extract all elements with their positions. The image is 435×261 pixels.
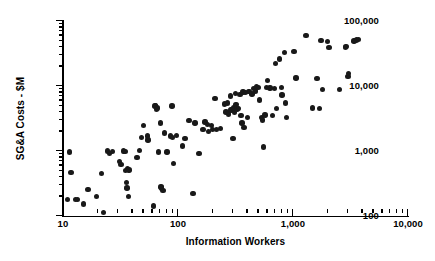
data-point [277,56,282,61]
data-point [126,167,131,172]
data-point [196,151,201,156]
data-point [186,118,191,123]
x-axis-minor-tick [142,209,143,213]
data-point [169,103,174,108]
x-axis-tick-label: 1,000 [281,219,305,229]
y-axis-minor-tick [59,99,63,100]
y-axis-title: SG&A Costs - $M [14,21,28,216]
data-point [141,123,146,128]
x-axis-minor-tick [396,209,397,213]
x-axis-minor-tick [232,209,233,213]
data-point [180,143,185,148]
data-point [225,100,230,105]
data-point [85,187,90,192]
data-point [283,100,288,105]
data-point [318,38,323,43]
data-point [274,106,279,111]
y-axis-minor-tick [59,54,63,55]
data-point [99,171,104,176]
data-point [124,180,129,185]
y-axis-minor-tick [59,184,63,185]
data-point [218,126,223,131]
data-point [164,149,169,154]
data-point [317,106,322,111]
data-point [337,87,342,92]
y-axis-major-tick [56,150,63,151]
y-axis-minor-tick [59,65,63,66]
data-point [212,96,217,101]
data-point [155,105,160,110]
y-axis-minor-tick [59,23,63,24]
data-point [326,45,331,50]
data-point [122,149,127,154]
y-axis-minor-tick [59,46,63,47]
data-point [192,120,197,125]
data-point [124,185,129,190]
y-axis-minor-tick [59,34,63,35]
y-axis-minor-tick [59,111,63,112]
data-point [356,37,361,42]
data-point [118,162,123,167]
x-axis-minor-tick [266,209,267,213]
data-point [182,136,187,141]
x-axis-tick-label: 10,000 [393,219,423,229]
plot-area [63,21,408,216]
x-axis-major-tick [292,209,293,216]
data-point [162,130,167,135]
x-axis-minor-tick [246,209,247,213]
y-axis-minor-tick [59,156,63,157]
data-point [67,149,72,154]
y-axis-minor-tick [59,176,63,177]
y-axis-ticks [55,20,63,217]
data-point [241,125,246,130]
data-point [261,144,266,149]
x-axis-minor-tick [151,209,152,213]
x-axis-tick-label: 10 [58,219,69,229]
data-point [282,50,287,55]
y-axis-minor-tick [59,153,63,154]
y-axis-minor-tick [59,130,63,131]
data-point [293,75,298,80]
data-point [346,71,351,76]
x-axis-minor-tick [159,209,160,213]
x-axis-minor-tick [281,209,282,213]
y-axis-minor-tick [59,91,63,92]
data-point [151,203,156,208]
x-axis-minor-tick [97,209,98,213]
data-point [75,197,80,202]
data-point [279,85,284,90]
data-point [260,117,265,122]
x-axis-minor-tick [389,209,390,213]
y-axis-minor-tick [59,88,63,89]
data-point [314,76,319,81]
y-axis-minor-tick [59,95,63,96]
x-axis-minor-tick [274,209,275,213]
y-axis-minor-tick [59,26,63,27]
data-point [158,120,163,125]
data-point [272,86,277,91]
x-axis-minor-tick [402,209,403,213]
x-axis-minor-tick [257,209,258,213]
data-point [110,149,115,154]
y-axis-minor-tick [59,164,63,165]
x-axis-minor-tick [117,209,118,213]
x-axis-minor-tick [131,209,132,213]
x-axis-minor-tick [327,209,328,213]
data-point [65,197,70,202]
y-axis-minor-tick [59,195,63,196]
data-point [230,136,235,141]
data-point [139,135,144,140]
data-point [200,127,205,132]
y-axis-tick-label: 10,000 [349,81,379,91]
data-point [245,115,250,120]
y-axis-minor-tick [59,30,63,31]
x-axis-minor-tick [212,209,213,213]
x-axis-minor-tick [166,209,167,213]
data-point [284,115,289,120]
y-axis-minor-tick [59,40,63,41]
x-axis-tick-label: 100 [170,219,186,229]
data-point [94,194,99,199]
scatter-plot-figure: 1001,00010,000100,000 101001,00010,000 S… [0,0,435,261]
data-point [262,112,267,117]
data-point [343,44,348,49]
